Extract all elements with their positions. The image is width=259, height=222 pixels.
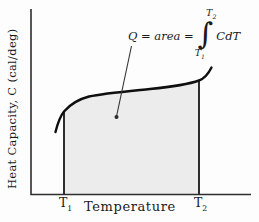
formula-integrand: CdT — [216, 29, 240, 43]
t2-sub: 2 — [202, 204, 207, 213]
x-tick-t2: T2 — [194, 195, 207, 213]
x-tick-t1: T1 — [59, 195, 72, 213]
figure-heat-capacity-chart: Heat Capacity, C (cal/deg) Q = area = T2… — [0, 0, 259, 222]
y-axis-label: Heat Capacity, C (cal/deg) — [5, 29, 19, 189]
integral-lower-limit: T1 — [195, 48, 205, 60]
t1-sub: 1 — [67, 204, 72, 213]
integral-sign: ∫ — [198, 20, 214, 48]
lower-limit-sub: 1 — [201, 53, 205, 60]
leader-endpoint-dot — [115, 115, 119, 119]
x-axis-label: Temperature — [84, 199, 176, 214]
formula-lhs: Q = area = — [128, 29, 194, 43]
integral-block: T2 ∫ T1 — [198, 8, 214, 60]
integral-annotation: Q = area = T2 ∫ T1 CdT — [128, 8, 240, 60]
